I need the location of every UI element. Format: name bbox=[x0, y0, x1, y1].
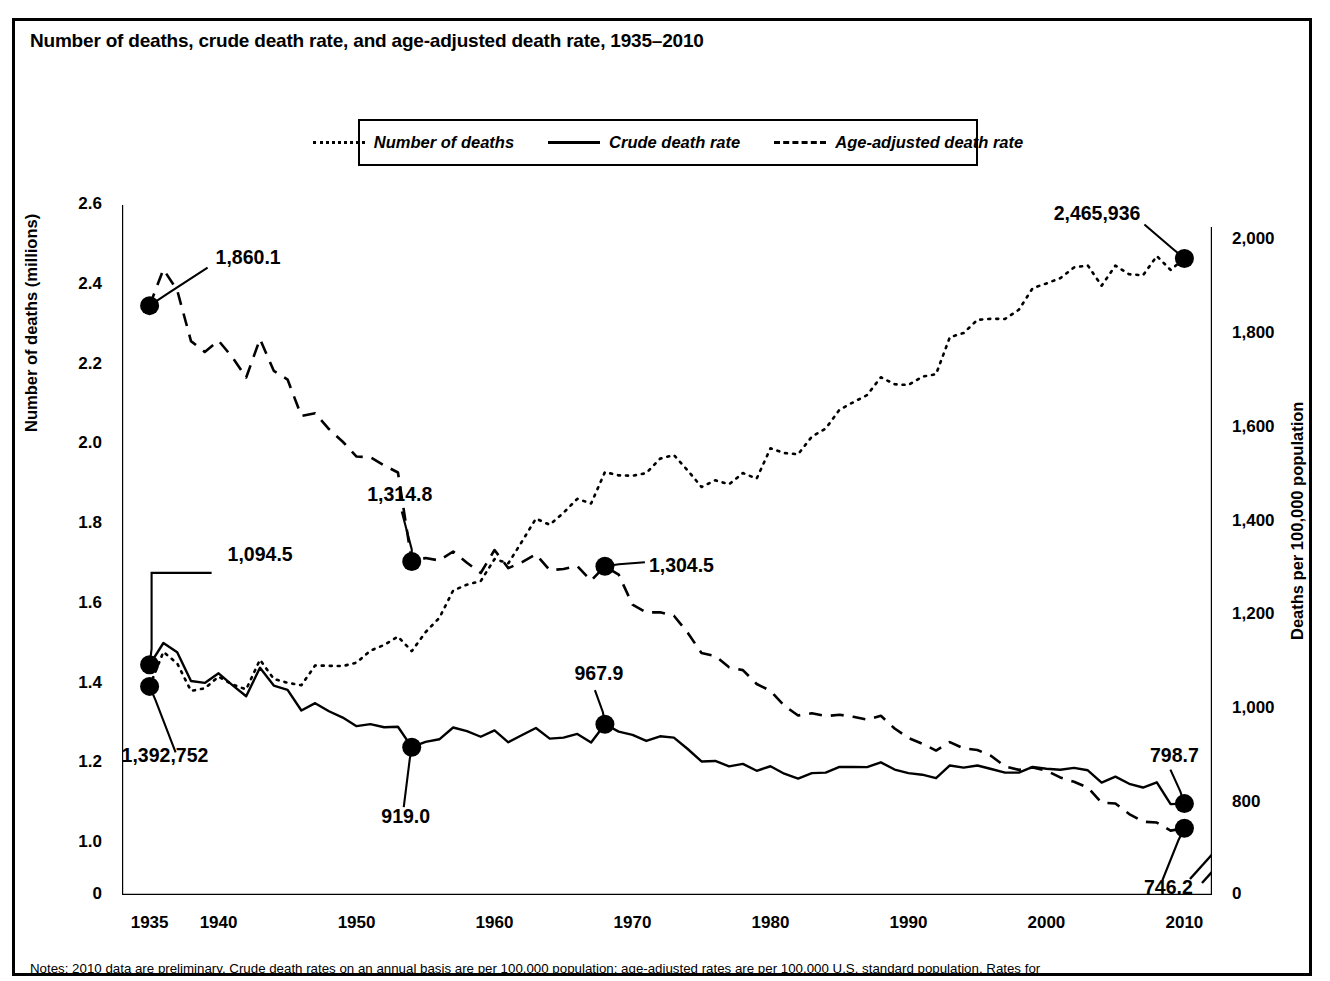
annotation-label: 1,392,752 bbox=[122, 744, 209, 766]
y-axis-right-tick-label: 1,400 bbox=[1232, 511, 1275, 531]
page-title: Number of deaths, crude death rate, and … bbox=[30, 30, 704, 52]
data-point-marker bbox=[402, 738, 421, 757]
y-axis-left-tick-label: 1.4 bbox=[46, 673, 102, 693]
data-point-marker bbox=[1175, 819, 1194, 838]
dotted-line-icon bbox=[313, 141, 365, 144]
y-axis-left-tick-label: 2.0 bbox=[46, 433, 102, 453]
annotation-label: 1,094.5 bbox=[228, 543, 293, 565]
solid-line-icon bbox=[548, 141, 600, 144]
legend-item-number-of-deaths: Number of deaths bbox=[313, 133, 514, 152]
data-point-marker bbox=[1175, 794, 1194, 813]
legend-item-crude-death-rate: Crude death rate bbox=[548, 133, 740, 152]
y-axis-left-title: Number of deaths (millions) bbox=[22, 408, 41, 432]
x-axis-tick-label: 1935 bbox=[124, 913, 176, 933]
x-axis-tick-label: 2010 bbox=[1158, 913, 1210, 933]
legend-item-age-adjusted-death-rate: Age-adjusted death rate bbox=[774, 133, 1023, 152]
y-axis-right-tick-label: 1,200 bbox=[1232, 604, 1275, 624]
series-line-age-adjusted-death-rate bbox=[150, 269, 1185, 830]
series-line-number-of-deaths bbox=[150, 256, 1185, 691]
data-point-marker bbox=[402, 552, 421, 571]
x-axis-tick-label: 1960 bbox=[469, 913, 521, 933]
y-axis-right-tick-label: 1,600 bbox=[1232, 417, 1275, 437]
y-axis-left-tick-label: 2.6 bbox=[46, 194, 102, 214]
data-point-marker bbox=[595, 557, 614, 576]
axis-break-mark bbox=[1190, 839, 1212, 879]
annotation-label: 2,465,936 bbox=[1054, 205, 1141, 224]
annotation-leader bbox=[150, 686, 176, 752]
chart-svg: 1,860.11,094.51,392,7521,314.8919.01,304… bbox=[122, 205, 1212, 895]
y-axis-right-title: Deaths per 100,000 population bbox=[1288, 402, 1307, 640]
x-axis-tick-label: 1940 bbox=[193, 913, 245, 933]
annotation-label: 798.7 bbox=[1150, 744, 1199, 766]
series-layer bbox=[150, 256, 1185, 831]
y-axis-left-tick-label: 0 bbox=[46, 884, 102, 904]
annotation-label: 746.2 bbox=[1144, 876, 1193, 895]
annotation-label: 967.9 bbox=[575, 662, 624, 684]
y-axis-right-tick-label: 1,800 bbox=[1232, 323, 1275, 343]
series-line-crude-death-rate bbox=[150, 643, 1185, 804]
figure-note: Notes: 2010 data are preliminary. Crude … bbox=[30, 961, 1300, 978]
legend-label: Crude death rate bbox=[609, 133, 740, 152]
x-axis-tick-label: 1980 bbox=[744, 913, 796, 933]
annotation-label: 1,314.8 bbox=[367, 483, 432, 505]
y-axis-right-tick-label: 1,000 bbox=[1232, 698, 1275, 718]
x-axis-tick-label: 2000 bbox=[1020, 913, 1072, 933]
y-axis-left-tick-label: 1.6 bbox=[46, 593, 102, 613]
legend-label: Age-adjusted death rate bbox=[835, 133, 1023, 152]
annotation-label: 1,304.5 bbox=[649, 554, 714, 576]
x-axis-tick-label: 1990 bbox=[882, 913, 934, 933]
chart-legend: Number of deaths Crude death rate Age-ad… bbox=[358, 119, 978, 166]
data-point-marker bbox=[140, 655, 159, 674]
y-axis-right-tick-label: 0 bbox=[1232, 884, 1241, 904]
annotation-label: 919.0 bbox=[381, 805, 430, 827]
x-axis-tick-label: 1950 bbox=[331, 913, 383, 933]
legend-label: Number of deaths bbox=[374, 133, 514, 152]
chart-plot-area: 1,860.11,094.51,392,7521,314.8919.01,304… bbox=[122, 205, 1212, 895]
x-axis-tick-label: 1970 bbox=[607, 913, 659, 933]
annotation-label: 1,860.1 bbox=[216, 246, 281, 268]
figure-panel: Number of deaths, crude death rate, and … bbox=[0, 0, 1330, 981]
y-axis-left-tick-label: 2.4 bbox=[46, 274, 102, 294]
dashed-line-icon bbox=[774, 141, 826, 144]
data-point-marker bbox=[140, 296, 159, 315]
y-axis-left-tick-label: 1.0 bbox=[46, 832, 102, 852]
y-axis-left-tick-label: 1.2 bbox=[46, 752, 102, 772]
y-axis-left-tick-label: 2.2 bbox=[46, 354, 102, 374]
y-axis-right-tick-label: 2,000 bbox=[1232, 229, 1275, 249]
data-point-marker bbox=[140, 677, 159, 696]
data-point-marker bbox=[595, 715, 614, 734]
data-point-marker bbox=[1175, 249, 1194, 268]
y-axis-left-tick-label: 1.8 bbox=[46, 513, 102, 533]
annotation-layer: 1,860.11,094.51,392,7521,314.8919.01,304… bbox=[122, 205, 1199, 895]
y-axis-right-tick-label: 800 bbox=[1232, 792, 1260, 812]
